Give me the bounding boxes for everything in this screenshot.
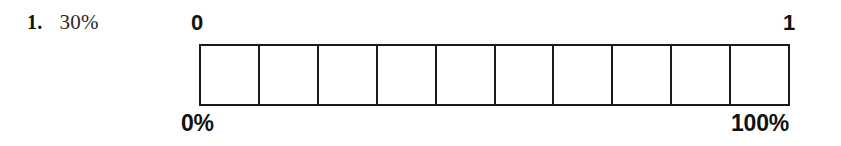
axis-label-top-start: 0 [191, 12, 203, 34]
strip-cell[interactable] [201, 46, 260, 104]
strip-cell[interactable] [731, 46, 788, 104]
strip-cell[interactable] [496, 46, 555, 104]
strip-cell-row [199, 44, 790, 106]
strip-cell[interactable] [378, 46, 437, 104]
strip-cell[interactable] [613, 46, 672, 104]
axis-label-top-end: 1 [783, 12, 795, 34]
question-percent-value: 30% [60, 11, 99, 33]
percent-strip-diagram [199, 44, 790, 106]
question-number: 1. [27, 11, 43, 33]
question-row: 1. 30% [27, 11, 99, 37]
strip-cell[interactable] [672, 46, 731, 104]
strip-cell[interactable] [554, 46, 613, 104]
strip-cell[interactable] [437, 46, 496, 104]
axis-label-bottom-end: 100% [731, 112, 789, 135]
strip-cell[interactable] [260, 46, 319, 104]
strip-cell[interactable] [319, 46, 378, 104]
axis-label-bottom-start: 0% [181, 112, 214, 135]
